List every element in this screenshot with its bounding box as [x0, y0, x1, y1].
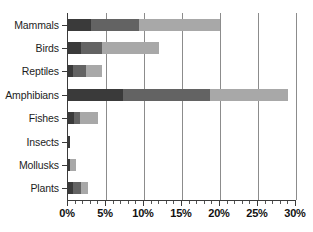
- x-axis-tick-major: [143, 201, 144, 206]
- gridline-20%: [220, 13, 221, 200]
- y-axis-tick: [62, 48, 67, 49]
- x-axis-tick-major: [67, 201, 68, 206]
- bar-segment[interactable]: [80, 112, 98, 124]
- x-axis-tick-minor: [234, 201, 235, 204]
- x-axis-label-25pct: 25%: [246, 207, 267, 219]
- bar-segment[interactable]: [139, 19, 220, 31]
- y-axis-tick: [62, 142, 67, 143]
- x-axis-tick-minor: [287, 201, 288, 204]
- y-axis-tick: [62, 188, 67, 189]
- x-axis-tick-minor: [272, 201, 273, 204]
- bar-segment[interactable]: [102, 42, 159, 54]
- x-axis-tick-minor: [227, 201, 228, 204]
- x-axis-tick-minor: [113, 201, 114, 204]
- bar-row[interactable]: [68, 65, 102, 77]
- y-axis-label-amphibians: Amphibians: [5, 89, 59, 101]
- y-axis-tick: [62, 71, 67, 72]
- bar-segment[interactable]: [81, 182, 88, 194]
- x-axis-tick-major: [181, 201, 182, 206]
- bar-segment[interactable]: [91, 19, 139, 31]
- x-axis-tick-minor: [151, 201, 152, 204]
- x-axis-tick-minor: [75, 201, 76, 204]
- bar-segment[interactable]: [210, 89, 288, 101]
- y-axis-label-birds: Birds: [36, 42, 59, 54]
- x-axis-tick-minor: [204, 201, 205, 204]
- bar-row[interactable]: [68, 42, 159, 54]
- x-axis-tick-major: [295, 201, 296, 206]
- bar-segment[interactable]: [68, 89, 123, 101]
- x-axis-tick-minor: [120, 201, 121, 204]
- x-axis-tick-minor: [280, 201, 281, 204]
- bar-segment[interactable]: [68, 136, 70, 148]
- x-axis-tick-minor: [158, 201, 159, 204]
- x-axis-label-0pct: 0%: [59, 207, 75, 219]
- x-axis-tick-minor: [97, 201, 98, 204]
- x-axis-tick-minor: [265, 201, 266, 204]
- plot-area: [67, 13, 296, 200]
- x-axis-label-5pct: 5%: [97, 207, 113, 219]
- x-axis-tick-minor: [128, 201, 129, 204]
- bar-row[interactable]: [68, 182, 88, 194]
- x-axis-tick-minor: [189, 201, 190, 204]
- bar-segment[interactable]: [73, 182, 81, 194]
- bar-segment[interactable]: [81, 42, 102, 54]
- gridline-25%: [258, 13, 259, 200]
- x-axis-tick-minor: [173, 201, 174, 204]
- gridline-15%: [182, 13, 183, 200]
- y-axis-label-insects: Insects: [26, 136, 59, 148]
- x-axis-label-20pct: 20%: [208, 207, 229, 219]
- gridline-30%: [296, 13, 297, 200]
- y-axis-tick: [62, 165, 67, 166]
- x-axis-label-30pct: 30%: [284, 207, 305, 219]
- bar-segment[interactable]: [68, 42, 81, 54]
- y-axis-tick: [62, 95, 67, 96]
- bar-row[interactable]: [68, 159, 76, 171]
- y-axis-tick: [62, 118, 67, 119]
- y-axis-label-plants: Plants: [30, 182, 59, 194]
- x-axis-tick-major: [219, 201, 220, 206]
- x-axis-tick-minor: [166, 201, 167, 204]
- x-axis-tick-major: [257, 201, 258, 206]
- bar-segment[interactable]: [68, 19, 91, 31]
- x-axis-label-10pct: 10%: [132, 207, 153, 219]
- x-axis-label-15pct: 15%: [170, 207, 191, 219]
- y-axis-label-reptiles: Reptiles: [22, 65, 59, 77]
- bar-row[interactable]: [68, 112, 98, 124]
- y-axis-label-mammals: Mammals: [14, 19, 59, 31]
- y-axis-tick: [62, 25, 67, 26]
- x-axis-tick-minor: [211, 201, 212, 204]
- x-axis-tick-minor: [242, 201, 243, 204]
- bar-segment[interactable]: [123, 89, 210, 101]
- x-axis-tick-minor: [196, 201, 197, 204]
- bar-row[interactable]: [68, 89, 288, 101]
- y-axis-label-mollusks: Mollusks: [19, 159, 59, 171]
- x-axis-tick-major: [105, 201, 106, 206]
- x-axis-tick-minor: [135, 201, 136, 204]
- bar-chart: MammalsBirdsReptilesAmphibiansFishesInse…: [0, 0, 313, 232]
- x-axis-tick-minor: [249, 201, 250, 204]
- bar-row[interactable]: [68, 136, 70, 148]
- bar-segment[interactable]: [70, 159, 75, 171]
- x-axis-tick-minor: [82, 201, 83, 204]
- x-axis-tick-minor: [90, 201, 91, 204]
- bar-row[interactable]: [68, 19, 220, 31]
- bar-segment[interactable]: [86, 65, 102, 77]
- y-axis-label-fishes: Fishes: [29, 112, 59, 124]
- bar-segment[interactable]: [73, 65, 86, 77]
